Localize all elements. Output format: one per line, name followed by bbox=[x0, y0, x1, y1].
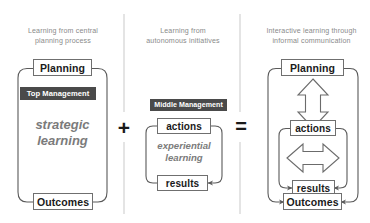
panel3-node-outcomes[interactable]: Outcomes bbox=[283, 193, 342, 210]
operator-equals: = bbox=[232, 116, 250, 136]
panel2-node-actions[interactable]: actions bbox=[157, 118, 211, 134]
panel2-badge-middle-management: Middle Management bbox=[150, 99, 227, 111]
diagram-root: Learning from central planning process P… bbox=[0, 0, 370, 223]
panel2-caption: Learning from autonomous initiatives bbox=[132, 27, 234, 46]
horizontal-block-arrow bbox=[287, 144, 339, 172]
panel3-caption: Interactive learning through informal co… bbox=[253, 27, 370, 46]
operator-plus: + bbox=[114, 117, 134, 138]
panel1-node-planning[interactable]: Planning bbox=[33, 59, 92, 76]
panel1-badge-top-management: Top Management bbox=[20, 87, 96, 100]
panel2-experiential-learning: experiential learning bbox=[146, 140, 222, 163]
panel3-node-actions[interactable]: actions bbox=[290, 120, 336, 136]
panel1-caption: Learning from central planning process bbox=[8, 27, 118, 46]
panel3-node-planning[interactable]: Planning bbox=[281, 59, 344, 76]
panel1-strategic-learning: strategic learning bbox=[18, 117, 107, 149]
panel2-node-results[interactable]: results bbox=[157, 175, 208, 191]
panel1-node-outcomes[interactable]: Outcomes bbox=[33, 193, 93, 210]
